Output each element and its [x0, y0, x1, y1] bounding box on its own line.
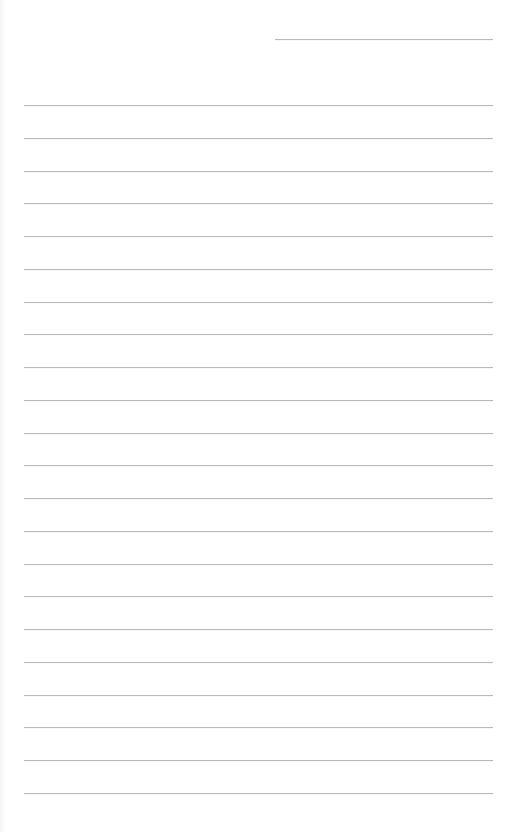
ruled-line [24, 793, 493, 794]
ruled-line [24, 498, 493, 499]
ruled-line [24, 171, 493, 172]
header-date-line [275, 39, 493, 40]
ruled-line [24, 629, 493, 630]
ruled-line [24, 662, 493, 663]
ruled-line [24, 302, 493, 303]
ruled-line [24, 564, 493, 565]
page-left-edge-shadow [0, 0, 6, 832]
ruled-line [24, 465, 493, 466]
ruled-line [24, 596, 493, 597]
ruled-line [24, 367, 493, 368]
ruled-line [24, 236, 493, 237]
ruled-line [24, 269, 493, 270]
ruled-line [24, 433, 493, 434]
ruled-line [24, 695, 493, 696]
ruled-line [24, 203, 493, 204]
ruled-line [24, 138, 493, 139]
ruled-line [24, 727, 493, 728]
ruled-line [24, 531, 493, 532]
ruled-line [24, 334, 493, 335]
ruled-line [24, 400, 493, 401]
notebook-page [0, 0, 521, 832]
ruled-line [24, 760, 493, 761]
ruled-line [24, 105, 493, 106]
